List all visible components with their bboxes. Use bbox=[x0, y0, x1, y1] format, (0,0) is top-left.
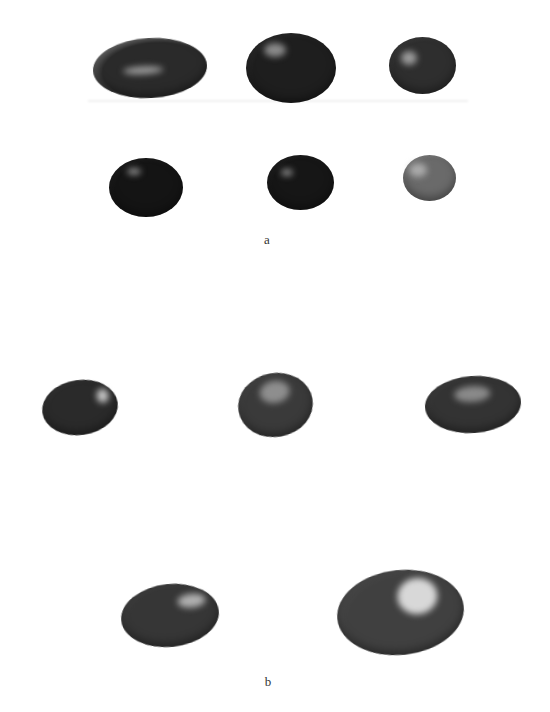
stone-a5 bbox=[267, 155, 334, 210]
highlight bbox=[454, 385, 491, 403]
highlight bbox=[258, 378, 291, 405]
stone-b3 bbox=[423, 373, 523, 437]
stone-a1 bbox=[92, 35, 209, 101]
stone-a2 bbox=[246, 33, 336, 103]
stone-a3 bbox=[389, 37, 456, 94]
panel-label-a: a bbox=[264, 232, 270, 248]
stone-b1 bbox=[39, 375, 122, 440]
stone-b4 bbox=[118, 579, 222, 652]
shelf-line-a bbox=[88, 100, 468, 102]
highlight bbox=[396, 576, 440, 616]
highlight bbox=[281, 169, 293, 176]
highlight bbox=[96, 388, 110, 404]
highlight bbox=[123, 65, 163, 75]
stone-a6 bbox=[403, 155, 456, 201]
figure-plate bbox=[0, 0, 550, 712]
highlight bbox=[127, 168, 141, 175]
highlight bbox=[177, 592, 206, 609]
stone-a4 bbox=[109, 158, 183, 217]
stone-b5 bbox=[333, 564, 468, 662]
highlight bbox=[264, 43, 286, 57]
highlight bbox=[401, 51, 417, 65]
panel-label-b: b bbox=[265, 674, 272, 690]
stone-b2 bbox=[233, 367, 318, 443]
highlight bbox=[409, 163, 427, 177]
